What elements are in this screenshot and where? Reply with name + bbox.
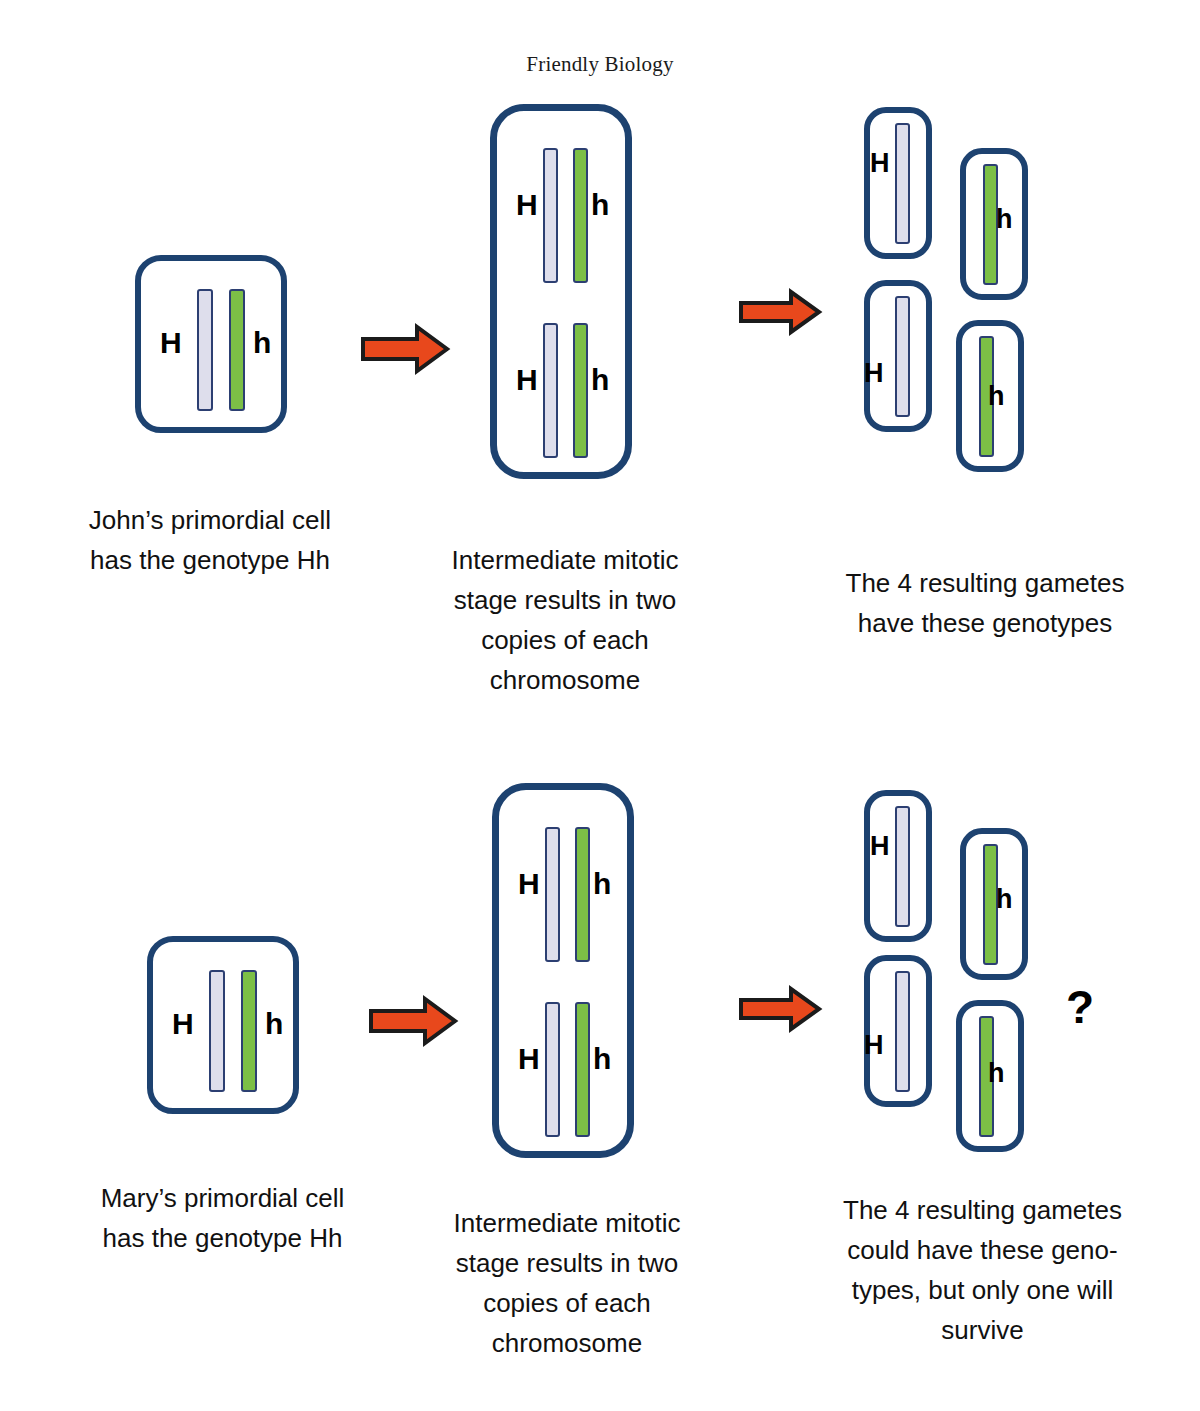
chromosome-light-top — [545, 827, 560, 962]
chromosome-green-top — [573, 148, 588, 283]
allele-label-h-bottom: h — [593, 1044, 611, 1074]
caption-john-gametes: The 4 resulting gametes have these genot… — [800, 563, 1170, 643]
gamete-allele-3: H — [864, 1032, 884, 1059]
page-title: Friendly Biology — [0, 52, 1200, 77]
allele-label-H-top: H — [516, 190, 538, 220]
gamete-allele-1: H — [870, 833, 890, 860]
chromosome-light — [197, 289, 213, 411]
john-intermediate-cell — [490, 104, 632, 479]
question-mark: ? — [1066, 984, 1094, 1030]
arrow-right-mary-2 — [737, 985, 823, 1033]
john-gamete-2 — [960, 148, 1028, 300]
chromosome-green-bottom — [573, 323, 588, 458]
gamete-allele-1: H — [870, 150, 890, 177]
gamete-allele-4: h — [988, 383, 1005, 410]
gamete-allele-2: h — [996, 206, 1013, 233]
caption-mary-primordial: Mary’s primordial cell has the genotype … — [35, 1178, 410, 1258]
arrow-right-john-1 — [359, 323, 451, 375]
arrow-right-john-2 — [737, 288, 823, 336]
caption-mary-intermediate: Intermediate mitotic stage results in tw… — [412, 1203, 722, 1363]
caption-john-primordial: John’s primordial cell has the genotype … — [25, 500, 395, 580]
allele-label-H: H — [160, 328, 182, 358]
chromosome-light-top — [543, 148, 558, 283]
chromosome-light — [209, 970, 225, 1092]
mary-intermediate-cell — [492, 783, 634, 1158]
chromosome-light — [895, 806, 910, 927]
chromosome-green-bottom — [575, 1002, 590, 1137]
allele-label-h-top: h — [591, 190, 609, 220]
gamete-allele-4: h — [988, 1060, 1005, 1087]
john-gamete-3 — [864, 280, 932, 432]
chromosome-green — [229, 289, 245, 411]
allele-label-h-bottom: h — [591, 365, 609, 395]
gamete-allele-2: h — [996, 886, 1013, 913]
mary-gamete-2 — [960, 828, 1028, 980]
chromosome-light — [895, 123, 910, 244]
caption-mary-gametes: The 4 resulting gametes could have these… — [795, 1190, 1170, 1350]
allele-label-H: H — [172, 1009, 194, 1039]
gamete-allele-3: H — [864, 360, 884, 387]
allele-label-H-bottom: H — [516, 365, 538, 395]
chromosome-green-top — [575, 827, 590, 962]
chromosome-light-bottom — [543, 323, 558, 458]
allele-label-H-bottom: H — [518, 1044, 540, 1074]
allele-label-h-top: h — [593, 869, 611, 899]
caption-john-intermediate: Intermediate mitotic stage results in tw… — [410, 540, 720, 700]
allele-label-H-top: H — [518, 869, 540, 899]
allele-label-h: h — [265, 1009, 283, 1039]
chromosome-light — [895, 971, 910, 1092]
allele-label-h: h — [253, 328, 271, 358]
chromosome-green — [241, 970, 257, 1092]
mary-gamete-1 — [864, 790, 932, 942]
chromosome-light-bottom — [545, 1002, 560, 1137]
chromosome-light — [895, 296, 910, 417]
john-gamete-1 — [864, 107, 932, 259]
arrow-right-mary-1 — [367, 995, 459, 1047]
